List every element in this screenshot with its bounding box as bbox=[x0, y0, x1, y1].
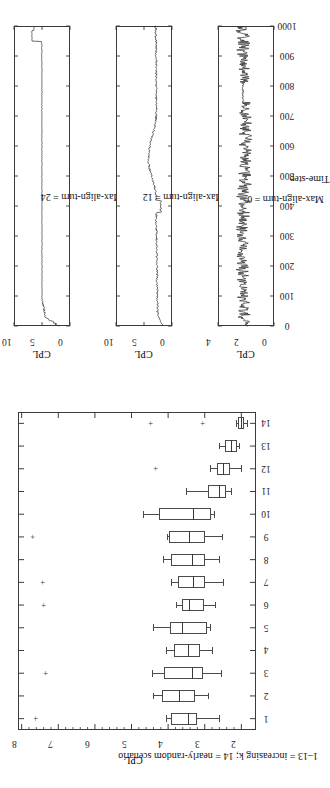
ts-y-tick-0: 0 bbox=[160, 337, 180, 347]
rotated-figure-frame: 2345678 1234567891011121314 CPL 1–13 = i… bbox=[0, 0, 330, 788]
timeseries-24-y-axis-title: CPL bbox=[32, 349, 50, 360]
boxplot-panel: 2345678 1234567891011121314 CPL 1–13 = i… bbox=[0, 388, 330, 788]
box-outlier bbox=[147, 420, 154, 427]
ts-x-tick-200: 200 bbox=[273, 261, 301, 271]
figure-canvas: 2345678 1234567891011121314 CPL 1–13 = i… bbox=[0, 0, 330, 788]
box-median bbox=[241, 417, 242, 429]
timeseries-0-y-axis-title: CPL bbox=[236, 349, 254, 360]
ts-x-tick-0: 0 bbox=[273, 321, 301, 331]
box-cap-high bbox=[236, 420, 237, 427]
ts-y-tick-10: 10 bbox=[104, 337, 124, 347]
ts-x-tick-600: 600 bbox=[273, 141, 301, 151]
ts-x-tick-700: 700 bbox=[273, 111, 301, 121]
box-cap-low bbox=[247, 420, 248, 427]
timeseries-12-y-axis-title: CPL bbox=[134, 349, 152, 360]
ts-y-tick-5: 5 bbox=[132, 337, 152, 347]
boxplot-box-14 bbox=[0, 388, 330, 788]
ts-x-tick-400: 400 bbox=[273, 201, 301, 211]
ts-x-tick-300: 300 bbox=[273, 231, 301, 241]
timeseries-panel-12: Max-align-turn = 12 0510 CPL bbox=[110, 0, 206, 388]
timeseries-panel-0: Max-align-turn = 0 024 CPL 0100200300400… bbox=[212, 0, 324, 388]
ts-y-tick-0: 0 bbox=[262, 337, 282, 347]
ts-x-tick-900: 900 bbox=[273, 51, 301, 61]
ts-y-tick-4: 4 bbox=[206, 337, 226, 347]
timeseries-panel-24: Max-align-turn = 24 0510 CPL bbox=[8, 0, 104, 388]
ts-y-tick-2: 2 bbox=[234, 337, 254, 347]
ts-y-tick-10: 10 bbox=[2, 337, 22, 347]
ts-x-tick-100: 100 bbox=[273, 291, 301, 301]
box-outlier bbox=[199, 420, 206, 427]
ts-y-tick-0: 0 bbox=[58, 337, 78, 347]
timeseries-stack: Max-align-turn = 24 0510 CPL Max-align-t… bbox=[0, 0, 330, 388]
ts-y-tick-5: 5 bbox=[30, 337, 50, 347]
ts-x-tick-1000: 1000 bbox=[273, 21, 301, 31]
ts-x-tick-800: 800 bbox=[273, 81, 301, 91]
timeseries-0-x-axis-title: Time-step bbox=[289, 174, 329, 185]
